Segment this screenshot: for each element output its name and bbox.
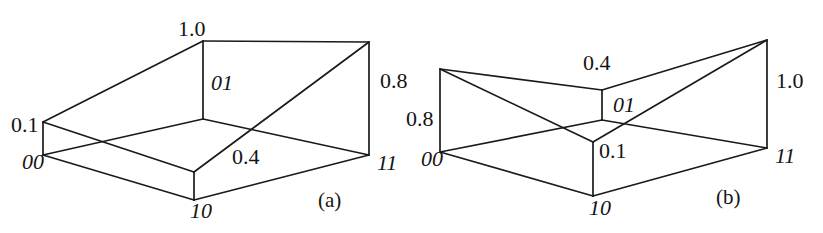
edge-top-01-11-b [602, 40, 767, 90]
panel-b-weight-10: 0.1 [599, 140, 627, 162]
figure-root: 0.1 1.0 0.4 0.8 00 01 10 11 (a) 0.8 0.4 … [0, 0, 823, 233]
panel-b-caption: (b) [716, 187, 741, 208]
panel-b-weight-00: 0.8 [406, 108, 434, 130]
panel-b-weight-01: 0.4 [583, 52, 611, 74]
edge-top-00-01-a [43, 41, 203, 122]
edge-top-10-11-a [194, 42, 369, 172]
panel-b-node-10: 10 [589, 197, 611, 219]
edge-floor-01-11-a [203, 119, 369, 155]
panel-a-weight-10: 0.4 [232, 146, 260, 168]
panel-a-node-11: 11 [377, 152, 397, 174]
panel-a-weight-01: 1.0 [178, 18, 206, 40]
panel-a-node-01: 01 [211, 72, 233, 94]
panel-a-weight-00: 0.1 [11, 114, 39, 136]
edge-floor-00-10-b [440, 152, 593, 196]
panel-b-node-00: 00 [421, 148, 443, 170]
panel-b-weight-11: 1.0 [776, 70, 804, 92]
edge-top-01-11-a [203, 41, 369, 42]
panel-a-caption: (a) [318, 190, 341, 211]
edge-top-00-01-b [440, 69, 602, 90]
edge-floor-00-01-a [43, 119, 203, 155]
panel-a-node-10: 10 [190, 200, 212, 222]
edge-floor-01-11-b [602, 120, 767, 148]
edge-top-10-11-b [593, 40, 767, 142]
edge-top-00-10-a [43, 122, 194, 172]
panel-a-node-00: 00 [22, 151, 44, 173]
panel-a-weight-11: 0.8 [380, 70, 408, 92]
edge-top-00-10-b [440, 69, 593, 142]
edge-floor-00-10-a [43, 155, 194, 200]
panel-b-node-11: 11 [775, 145, 795, 167]
panel-a-edges [43, 41, 369, 200]
panel-b-node-01: 01 [613, 94, 635, 116]
edge-floor-10-11-a [194, 155, 369, 200]
edge-floor-00-01-b [440, 120, 602, 152]
